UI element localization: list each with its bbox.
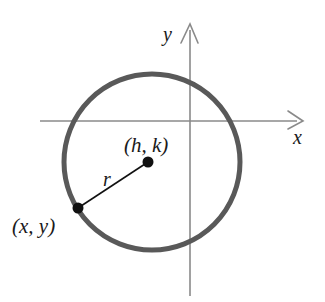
center-point-dot	[143, 157, 154, 168]
x-axis-label: x	[292, 126, 302, 148]
circumference-point-dot	[73, 203, 84, 214]
circle-geometry-figure: (h, k) (x, y) r x y	[0, 0, 325, 302]
radius-segment-line	[78, 162, 148, 208]
y-axis-label: y	[161, 23, 172, 46]
figure-canvas: (h, k) (x, y) r x y	[0, 0, 325, 302]
radius-label: r	[103, 168, 111, 190]
circumference-point-label: (x, y)	[12, 214, 55, 238]
center-point-label: (h, k)	[124, 133, 168, 157]
